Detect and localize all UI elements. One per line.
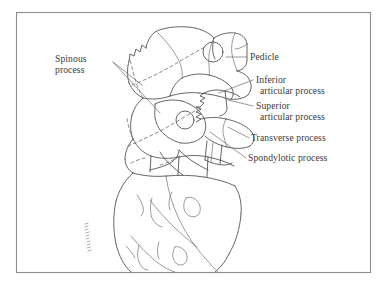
- label-transverse-process: Transverse process: [251, 132, 326, 143]
- anatomy-illustration: Spinous process Pedicle Inferior articul…: [0, 0, 387, 292]
- label-spondylotic-process: Spondylotic process: [248, 152, 328, 163]
- label-spinous-process-line2: process: [55, 64, 85, 75]
- label-superior-articular-line1: Superior: [256, 100, 291, 111]
- label-inferior-articular-line2: articular process: [260, 85, 325, 96]
- anatomy-figure: Spinous process Pedicle Inferior articul…: [0, 0, 387, 292]
- label-spinous-process-line1: Spinous: [55, 53, 87, 64]
- label-superior-articular-line2: articular process: [260, 111, 325, 122]
- label-pedicle: Pedicle: [250, 51, 279, 62]
- label-inferior-articular-line1: Inferior: [256, 74, 287, 85]
